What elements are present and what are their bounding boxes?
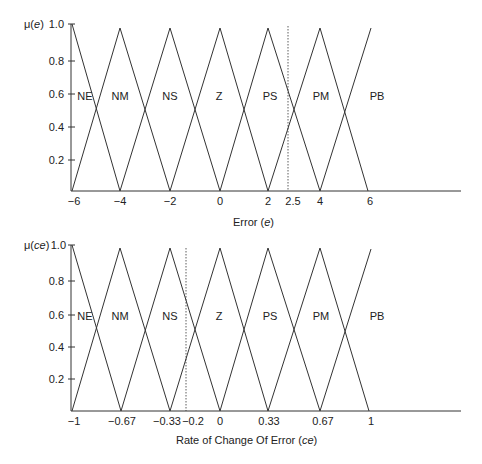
set-label-PS: PS (263, 310, 278, 322)
set-label-NE: NE (77, 90, 92, 102)
rate-of-change-chart (68, 245, 461, 411)
y-axis-label: μ(e) (24, 18, 44, 30)
rate-of-change-chart-labels: μ(ce) 1.0 0.8 0.6 0.4 0.2 NE NM NS Z PS … (24, 239, 384, 446)
mf-NM (72, 28, 170, 191)
mf-NS (120, 28, 220, 191)
set-label-PM: PM (313, 90, 330, 102)
mf-PM (268, 248, 369, 411)
set-label-PB: PB (370, 90, 385, 102)
y-tick-label: 0.4 (49, 121, 64, 133)
y-tick-label: 0.8 (49, 275, 64, 287)
x-tick-label: −0.67 (108, 415, 136, 427)
set-label-NE: NE (77, 310, 92, 322)
x-tick-label: −1 (68, 415, 81, 427)
mf-PM (268, 28, 368, 191)
y-tick-label: 0.8 (49, 55, 64, 67)
set-label-PB: PB (370, 310, 385, 322)
y-tick-label: 0.4 (49, 341, 64, 353)
y-tick-label: 0.2 (49, 373, 64, 385)
x-tick-label: −0.33 (153, 415, 181, 427)
set-label-NM: NM (111, 90, 128, 102)
x-tick-label: 2.5 (285, 195, 300, 207)
x-tick-label: 6 (367, 195, 373, 207)
mf-PS (220, 248, 320, 411)
mf-PS (220, 28, 320, 191)
set-label-Z: Z (216, 90, 223, 102)
x-tick-label: −0.2 (182, 415, 204, 427)
x-tick-label: 0 (217, 195, 223, 207)
error-chart-labels: μ(e) 1.0 0.8 0.6 0.4 0.2 NE NM NS Z PS P… (24, 18, 384, 228)
x-tick-label: −4 (114, 195, 127, 207)
set-label-NS: NS (162, 90, 177, 102)
error-chart (68, 24, 461, 191)
set-label-NS: NS (162, 310, 177, 322)
x-tick-label: 0.67 (312, 415, 333, 427)
mf-Z (170, 248, 268, 411)
y-axis-label: μ(ce) (24, 239, 49, 251)
y-tick-label: 0.6 (49, 88, 64, 100)
mf-NM (72, 248, 170, 411)
x-tick-label: 0.33 (258, 415, 279, 427)
set-label-NM: NM (111, 310, 128, 322)
mf-Z (170, 28, 268, 191)
x-axis-label: Rate of Change Of Error (ce) (176, 434, 317, 446)
y-tick-label: 0.2 (49, 154, 64, 166)
set-label-PM: PM (313, 310, 330, 322)
membership-function-figure: μ(e) 1.0 0.8 0.6 0.4 0.2 NE NM NS Z PS P… (0, 0, 482, 464)
x-tick-label: 2 (265, 195, 271, 207)
y-tick-label: 1.0 (49, 18, 64, 30)
x-tick-label: 1 (368, 415, 374, 427)
x-tick-label: 0 (217, 415, 223, 427)
y-tick-label: 0.6 (49, 309, 64, 321)
set-label-PS: PS (263, 90, 278, 102)
mf-NS (121, 248, 220, 411)
x-axis-label: Error (e) (233, 216, 274, 228)
set-label-Z: Z (216, 310, 223, 322)
y-tick-label: 1.0 (51, 239, 66, 251)
x-tick-label: −2 (164, 195, 177, 207)
x-tick-label: 4 (317, 195, 323, 207)
x-tick-label: −6 (68, 195, 81, 207)
